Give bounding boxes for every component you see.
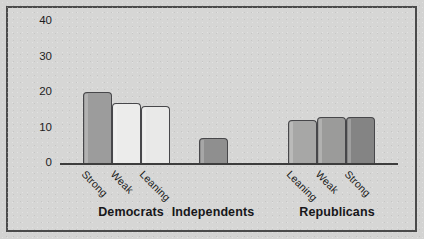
category-label-republicans-leaning: Leaning	[285, 168, 320, 203]
category-label-democrats-weak: Weak	[109, 168, 137, 196]
x-axis-baseline	[60, 163, 398, 165]
y-tick-label-0: 0	[26, 157, 52, 168]
y-tick-label-10: 10	[26, 122, 52, 133]
bar-highlight	[348, 119, 351, 163]
bar-highlight	[319, 119, 322, 163]
y-tick-label-40: 40	[26, 15, 52, 26]
bar-republicans-weak	[317, 117, 346, 163]
group-label-republicans: Republicans	[277, 205, 397, 219]
y-tick-label-30: 30	[26, 51, 52, 62]
bar-republicans-leaning	[288, 120, 317, 163]
category-label-republicans-strong: Strong	[343, 168, 374, 199]
bar-chart-figure: 403020100 StrongWeakLeaningLeaningWeakSt…	[0, 0, 424, 239]
bar-highlight	[290, 122, 293, 163]
bar-highlight	[114, 105, 117, 163]
bar-democrats-weak	[112, 103, 141, 163]
bar-highlight	[201, 140, 204, 163]
bar-democrats-leaning	[141, 106, 170, 163]
category-label-republicans-weak: Weak	[314, 168, 342, 196]
bar-democrats-strong	[83, 92, 112, 163]
bar-republicans-strong	[346, 117, 375, 163]
bar-independents	[199, 138, 228, 163]
category-label-democrats-leaning: Leaning	[138, 168, 173, 203]
y-axis-tick-labels: 403020100	[22, 0, 52, 239]
category-label-democrats-strong: Strong	[80, 168, 111, 199]
plot-area: 403020100 StrongWeakLeaningLeaningWeakSt…	[0, 0, 424, 239]
y-tick-label-20: 20	[26, 86, 52, 97]
y-axis-spine	[60, 163, 62, 165]
bar-highlight	[143, 108, 146, 163]
group-label-independents: Independents	[153, 205, 273, 219]
bar-highlight	[85, 94, 88, 163]
